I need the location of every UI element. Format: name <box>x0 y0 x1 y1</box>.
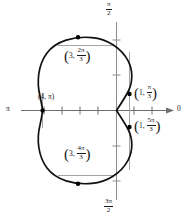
right-paren: ) <box>86 150 91 159</box>
graph-canvas <box>0 0 188 221</box>
comma: , <box>73 150 75 158</box>
three-pi-over-2-fraction: 3π 2 <box>104 198 113 214</box>
point-label-1-5pi-3: (1, 5π 3 ) <box>134 118 161 134</box>
comma: , <box>143 89 145 97</box>
point-label-3-4pi-3: (3, 4π 3 ) <box>64 146 91 162</box>
angle-fraction: 4π 3 <box>77 145 86 161</box>
right-paren: ) <box>152 89 157 98</box>
comma: , <box>73 52 75 60</box>
angle-fraction: 2π 3 <box>77 47 86 63</box>
point-label-3-2pi-3: (3, 2π 3 ) <box>64 48 91 64</box>
marker-3-4pi-3 <box>76 182 80 186</box>
marker-4-pi <box>40 108 44 112</box>
comma: , <box>143 122 145 130</box>
angle-fraction: 5π 3 <box>147 117 156 133</box>
axis-label-3pi-over-2: 3π 2 <box>104 199 113 215</box>
marker-1-5pi-3 <box>127 125 131 129</box>
marker-1-pi-3 <box>127 92 131 96</box>
horizontal-axis-arrow <box>166 107 174 113</box>
axis-label-pi-over-2: π 2 <box>106 2 112 18</box>
axis-label-zero: 0 <box>177 105 181 113</box>
right-paren: ) <box>86 52 91 61</box>
pi-over-2-fraction: π 2 <box>106 1 112 17</box>
right-paren: ) <box>156 122 161 131</box>
marker-3-2pi-3 <box>76 35 80 39</box>
point-label-4-pi: (4, π) <box>38 93 54 101</box>
axis-label-pi: π <box>6 105 10 113</box>
angle-fraction: π 3 <box>147 84 153 100</box>
polar-graph-figure: π 2 3π 2 π 0 (3, 2π 3 ) (4, π) (3, 4π 3 … <box>0 0 188 221</box>
point-label-1-pi-3: (1, π 3 ) <box>134 85 157 101</box>
